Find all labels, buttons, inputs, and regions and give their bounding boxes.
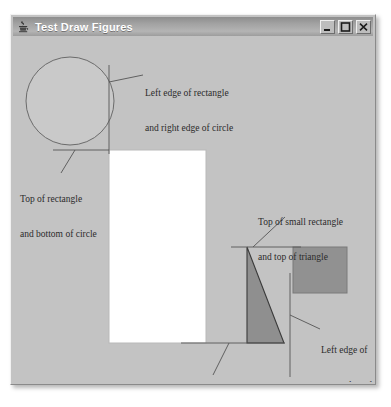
annotation-line: Left edge of xyxy=(321,345,372,357)
window-controls xyxy=(320,20,371,34)
annotation-line: and bottom of circle xyxy=(20,229,97,241)
annotation-line: Top of small rectangle xyxy=(258,217,343,229)
annotation-left-edge-rect-right-edge-triangle: Left edge of rectangle and right edge of… xyxy=(321,322,372,382)
leader-left-edge-rectangle xyxy=(109,75,143,82)
leader-bottom-of-rectangle xyxy=(213,343,229,375)
screenshot-root: Test Draw Figures xyxy=(0,0,391,407)
application-window: Test Draw Figures xyxy=(10,14,376,385)
window-titlebar[interactable]: Test Draw Figures xyxy=(13,17,373,36)
annotation-line: rectangle and xyxy=(321,380,372,383)
minimize-button[interactable] xyxy=(320,20,335,34)
annotation-top-of-rectangle: Top of rectangle and bottom of circle xyxy=(20,171,97,263)
annotation-line: Top of rectangle xyxy=(20,194,97,206)
annotation-line: and right edge of circle xyxy=(145,123,233,135)
java-coffee-cup-icon xyxy=(17,20,30,34)
window-title: Test Draw Figures xyxy=(35,21,320,33)
large-circle xyxy=(26,57,114,145)
annotation-line: Left edge of rectangle xyxy=(145,88,233,100)
annotation-top-small-rectangle: Top of small rectangle and top of triang… xyxy=(258,194,343,286)
annotation-bottom-of-rectangle: Bottom of rectangle and bottom edge of t… xyxy=(163,375,268,382)
annotation-left-edge-rectangle: Left edge of rectangle and right edge of… xyxy=(145,65,233,157)
close-button[interactable] xyxy=(356,20,371,34)
leader-top-of-rectangle xyxy=(61,150,75,173)
large-white-rectangle xyxy=(109,150,206,343)
maximize-button[interactable] xyxy=(338,20,353,34)
drawing-canvas: Left edge of rectangle and right edge of… xyxy=(13,37,373,382)
leader-left-edge-small-rectangle xyxy=(290,315,320,329)
annotation-line: and top of triangle xyxy=(258,252,343,264)
